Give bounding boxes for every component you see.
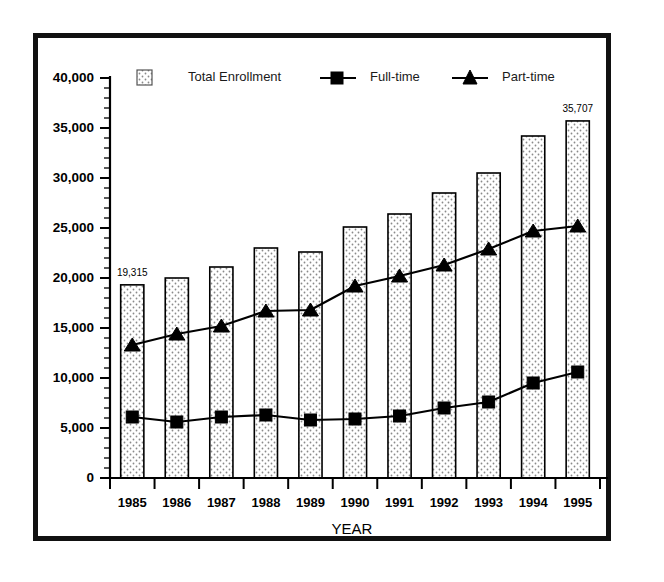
- y-tick-label: 15,000: [53, 320, 94, 335]
- marker-square: [394, 410, 406, 422]
- marker-square: [349, 413, 361, 425]
- legend-label-full-time: Full-time: [370, 69, 420, 84]
- chart-page: Total Enrollment Full-time Part-time 05,…: [0, 0, 664, 582]
- y-axis: 05,00010,00015,00020,00025,00030,00035,0…: [53, 70, 110, 485]
- marker-square: [260, 409, 272, 421]
- x-tick-label-1990: 1990: [341, 495, 370, 510]
- x-tick-label-1992: 1992: [430, 495, 459, 510]
- x-axis-title: YEAR: [332, 520, 373, 537]
- marker-square: [126, 411, 138, 423]
- y-tick-label: 35,000: [53, 120, 94, 135]
- bar-1995: [566, 121, 589, 478]
- y-tick-label: 25,000: [53, 220, 94, 235]
- y-tick-label: 30,000: [53, 170, 94, 185]
- bar-1988: [254, 248, 277, 478]
- marker-square: [304, 414, 316, 426]
- bar-1986: [165, 278, 188, 478]
- x-tick-label-1989: 1989: [296, 495, 325, 510]
- bar-1994: [522, 136, 545, 478]
- bar-1987: [210, 267, 233, 478]
- marker-square: [483, 396, 495, 408]
- y-tick-label: 10,000: [53, 370, 94, 385]
- x-axis: 1985198619871988198919901991199219931994…: [102, 478, 608, 510]
- legend-label-part-time: Part-time: [502, 69, 555, 84]
- legend-marker-full-time: [320, 72, 356, 84]
- data-label-1995: 35,707: [562, 103, 593, 114]
- bar-1992: [433, 193, 456, 478]
- y-tick-label: 0: [86, 470, 94, 485]
- y-tick-label: 5,000: [60, 420, 94, 435]
- x-tick-label-1985: 1985: [118, 495, 147, 510]
- x-tick-label-1995: 1995: [563, 495, 592, 510]
- data-label-1985: 19,315: [117, 267, 148, 278]
- x-tick-label-1993: 1993: [474, 495, 503, 510]
- bar-1985: [121, 285, 144, 478]
- bar-1991: [388, 214, 411, 478]
- legend-label-total-enrollment: Total Enrollment: [188, 69, 282, 84]
- marker-square: [572, 366, 584, 378]
- legend-marker-part-time: [452, 70, 488, 84]
- marker-square: [438, 402, 450, 414]
- bar-1989: [299, 252, 322, 478]
- marker-square: [527, 377, 539, 389]
- y-tick-label: 20,000: [53, 270, 94, 285]
- y-tick-label: 40,000: [53, 70, 94, 85]
- bar-1993: [477, 173, 500, 478]
- x-tick-label-1994: 1994: [519, 495, 549, 510]
- bar-1990: [343, 227, 366, 478]
- x-tick-label-1986: 1986: [162, 495, 191, 510]
- legend-swatch-total-enrollment: [137, 70, 152, 85]
- x-tick-label-1991: 1991: [385, 495, 414, 510]
- chart-legend: Total Enrollment Full-time Part-time: [137, 69, 555, 85]
- x-tick-label-1987: 1987: [207, 495, 236, 510]
- marker-square: [215, 411, 227, 423]
- enrollment-chart: Total Enrollment Full-time Part-time 05,…: [0, 0, 664, 582]
- x-tick-label-1988: 1988: [251, 495, 280, 510]
- marker-square: [171, 416, 183, 428]
